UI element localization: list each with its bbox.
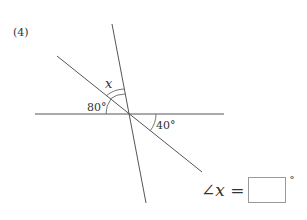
angle-x-arc-inner bbox=[110, 94, 125, 99]
angle-40-label: 40° bbox=[156, 119, 176, 132]
angle-80-arc bbox=[106, 99, 111, 114]
angle-x-label: x bbox=[105, 76, 112, 91]
answer-expression: ∠x = bbox=[201, 180, 244, 200]
answer-row: ∠x = ° bbox=[201, 177, 294, 203]
degree-symbol: ° bbox=[289, 174, 294, 185]
answer-input-box[interactable] bbox=[248, 177, 286, 203]
angle-80-label: 80° bbox=[87, 101, 107, 114]
